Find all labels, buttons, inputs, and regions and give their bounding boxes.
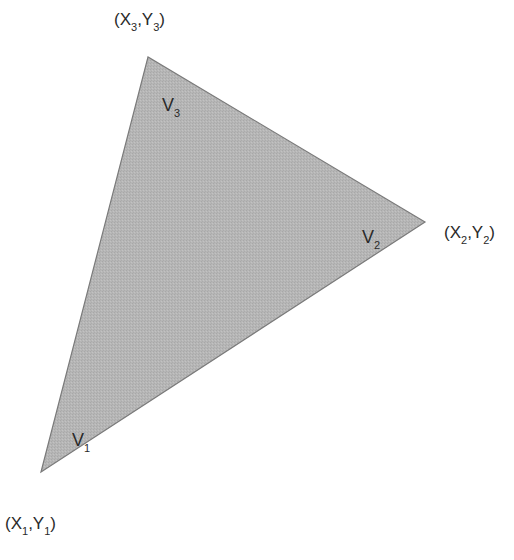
coord-label-v2: (X2,Y2) — [444, 223, 495, 246]
coord-label-v3: (X3,Y3) — [114, 10, 165, 33]
triangle-diagram: V3 V2 V1 (X3,Y3) (X2,Y2) (X1,Y1) — [0, 0, 514, 560]
coord-label-v1: (X1,Y1) — [5, 514, 56, 537]
triangle-shape — [41, 57, 425, 472]
